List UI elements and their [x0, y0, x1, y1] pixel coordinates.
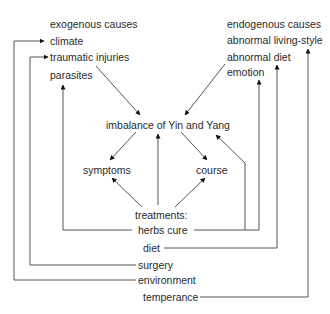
- treatments-header: treatments:: [135, 209, 188, 221]
- herbs-to-parasites-arrow: [63, 85, 132, 230]
- surgery-to-traumatic-arrow: [30, 57, 136, 265]
- treatment-diet: diet: [143, 242, 160, 254]
- cause-abnormal-diet: abnormal diet: [227, 51, 291, 63]
- traumatic-to-imbalance-arrow: [96, 66, 140, 115]
- cause-climate: climate: [50, 35, 83, 47]
- treatment-surgery: surgery: [138, 259, 173, 271]
- treatment-environment: environment: [138, 274, 196, 286]
- herbs-to-emotion-arrow: [245, 80, 259, 230]
- outcome-course: course: [196, 164, 228, 176]
- exogenous-causes-header: exogenous causes: [50, 18, 138, 30]
- diet-cause-to-imbalance-arrow: [185, 64, 225, 115]
- treatment-herbs-cure: herbs cure: [138, 224, 188, 236]
- treatments-to-course-arrow: [175, 178, 205, 207]
- cause-parasites: parasites: [50, 69, 93, 81]
- cause-traumatic-injuries: traumatic injuries: [50, 51, 129, 63]
- imbalance-yin-yang-node: imbalance of Yin and Yang: [106, 119, 230, 131]
- imbalance-to-symptoms-arrow: [110, 132, 136, 160]
- outcome-symptoms: symptoms: [83, 164, 131, 176]
- imbalance-to-course-arrow: [181, 132, 207, 160]
- treatments-to-symptoms-arrow: [112, 178, 142, 207]
- cause-abnormal-living-style: abnormal living-style: [227, 34, 323, 46]
- endogenous-causes-header: endogenous causes: [227, 18, 321, 30]
- cause-emotion: emotion: [227, 66, 264, 78]
- herbs-to-imbalance-arrow: [194, 135, 245, 230]
- treatment-temperance: temperance: [143, 291, 198, 303]
